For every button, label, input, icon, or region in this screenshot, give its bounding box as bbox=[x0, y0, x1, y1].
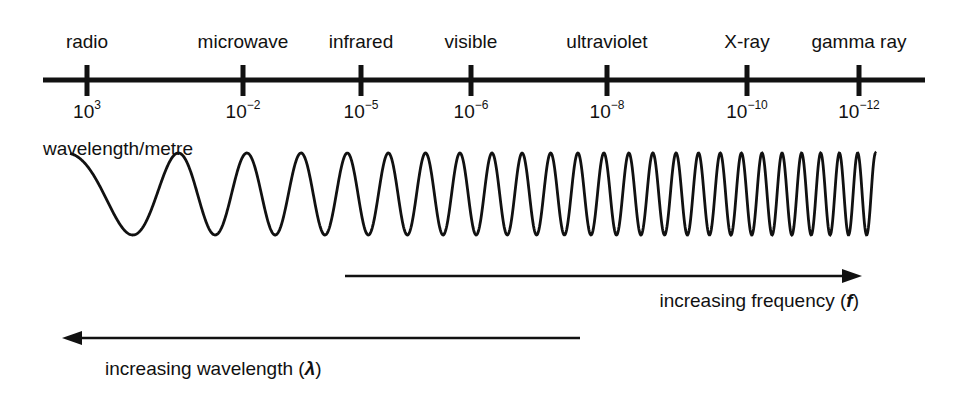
exponent-power: −6 bbox=[475, 98, 489, 112]
wavelength-caption: increasing wavelength (λ) bbox=[105, 358, 322, 380]
spectrum-graphic bbox=[0, 0, 976, 396]
exponent-power: −2 bbox=[247, 98, 261, 112]
band-label-x-ray: X-ray bbox=[724, 31, 769, 53]
exponent-base: 10 bbox=[454, 101, 475, 122]
band-label-infrared: infrared bbox=[329, 31, 393, 53]
axis-title: wavelength/metre bbox=[43, 138, 193, 160]
band-label-radio: radio bbox=[66, 31, 108, 53]
frequency-caption-end: ) bbox=[853, 290, 859, 311]
frequency-caption-text: increasing frequency ( bbox=[659, 290, 846, 311]
wavelength-value-ultraviolet: 10−8 bbox=[590, 101, 625, 123]
wavelength-value-visible: 10−6 bbox=[454, 101, 489, 123]
wavelength-symbol: λ bbox=[305, 358, 316, 379]
exponent-power: −5 bbox=[365, 98, 379, 112]
wavelength-caption-end: ) bbox=[315, 358, 321, 379]
frequency-caption: increasing frequency (f) bbox=[659, 290, 859, 312]
exponent-power: 3 bbox=[94, 98, 101, 112]
band-label-microwave: microwave bbox=[198, 31, 289, 53]
band-label-ultraviolet: ultraviolet bbox=[566, 31, 647, 53]
exponent-power: −12 bbox=[859, 98, 879, 112]
exponent-base: 10 bbox=[590, 101, 611, 122]
wavelength-caption-text: increasing wavelength ( bbox=[105, 358, 305, 379]
exponent-power: −8 bbox=[611, 98, 625, 112]
exponent-base: 10 bbox=[226, 101, 247, 122]
exponent-base: 10 bbox=[838, 101, 859, 122]
wavelength-value-radio: 103 bbox=[73, 101, 101, 123]
wavelength-value-infrared: 10−5 bbox=[344, 101, 379, 123]
wavelength-value-microwave: 10−2 bbox=[226, 101, 261, 123]
exponent-base: 10 bbox=[344, 101, 365, 122]
band-label-gamma-ray: gamma ray bbox=[811, 31, 906, 53]
band-label-visible: visible bbox=[445, 31, 498, 53]
exponent-base: 10 bbox=[726, 101, 747, 122]
wave-curve bbox=[70, 153, 876, 235]
frequency-arrow bbox=[345, 269, 862, 283]
exponent-power: −10 bbox=[747, 98, 767, 112]
wavelength-value-gamma-ray: 10−12 bbox=[838, 101, 880, 123]
wavelength-value-x-ray: 10−10 bbox=[726, 101, 768, 123]
wavelength-arrow bbox=[62, 331, 580, 345]
exponent-base: 10 bbox=[73, 101, 94, 122]
